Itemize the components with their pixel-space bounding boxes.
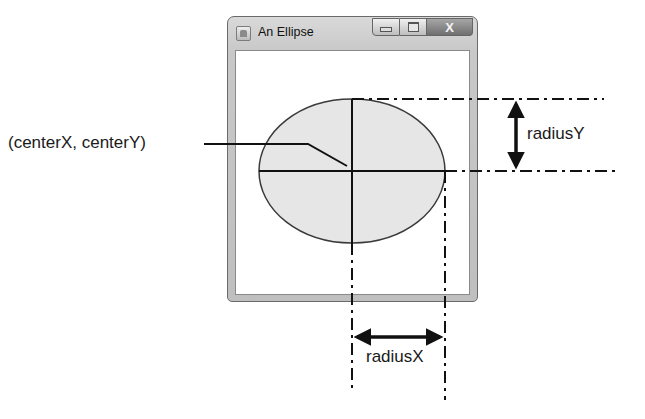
radius-y-label: radiusY xyxy=(527,124,585,144)
diagram-overlay xyxy=(0,0,645,419)
radius-x-label: radiusX xyxy=(366,347,424,367)
diagram: An Ellipse X xyxy=(0,0,645,419)
center-label: (centerX, centerY) xyxy=(8,133,146,153)
